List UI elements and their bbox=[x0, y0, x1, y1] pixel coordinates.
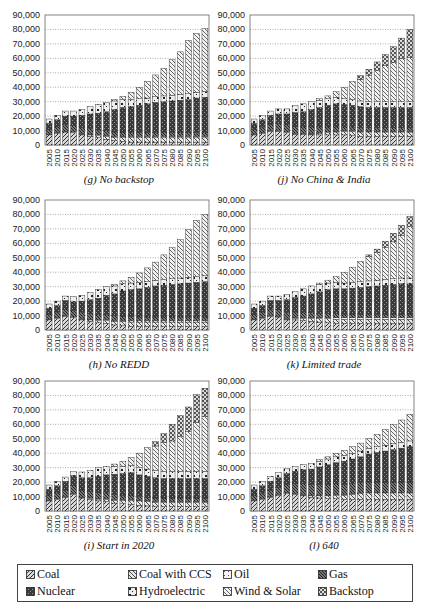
bar-segment-nuclear bbox=[251, 123, 257, 129]
legend: CoalCoal with CCSOilGasNuclearHydroelect… bbox=[17, 564, 413, 602]
bar-segment-wind-solar bbox=[399, 235, 405, 278]
legend-label: Coal with CCS bbox=[139, 567, 212, 582]
bar-segment-nuclear bbox=[300, 296, 306, 313]
bar-segment-backstop bbox=[153, 442, 159, 446]
bar-segment-nuclear bbox=[350, 105, 356, 127]
y-tick-label: 20,000 bbox=[12, 296, 40, 306]
bar-segment-nuclear bbox=[407, 107, 413, 127]
bar-segment-gas bbox=[186, 317, 192, 321]
y-tick-label: 90,000 bbox=[217, 376, 245, 386]
bar-segment-hydroelectric bbox=[46, 119, 52, 123]
bar-segment-hydroelectric bbox=[251, 485, 257, 489]
panel-caption: (l) 640 bbox=[309, 539, 339, 552]
bar-segment-nuclear bbox=[79, 478, 85, 490]
bar-segment-hydroelectric bbox=[259, 301, 265, 305]
bar-segment-gas bbox=[284, 125, 290, 132]
bar-segment-hydroelectric bbox=[95, 468, 101, 477]
chart-panel: 010,00020,00030,00040,00050,00060,00070,… bbox=[217, 10, 414, 186]
bar-segment-oil bbox=[169, 136, 175, 137]
legend-swatch-icon bbox=[223, 570, 232, 579]
bar-segment-gas bbox=[374, 314, 380, 318]
bar-segment-coal bbox=[46, 135, 52, 145]
bar-segment-coal bbox=[186, 507, 192, 511]
bar-segment-hydroelectric bbox=[104, 102, 110, 111]
bar-segment-coal-with-ccs bbox=[177, 502, 183, 506]
bar-segment-coal-with-ccs bbox=[333, 495, 339, 499]
bar-segment-gas bbox=[292, 126, 298, 133]
legend-item-wind-solar: Wind & Solar bbox=[223, 584, 301, 599]
bar-segment-coal-with-ccs bbox=[145, 138, 151, 142]
bar-segment-hydroelectric bbox=[333, 282, 339, 289]
bar-segment-oil bbox=[399, 318, 405, 319]
bar-segment-coal bbox=[350, 324, 356, 331]
bar-segment-nuclear bbox=[202, 479, 208, 499]
bar-segment-coal bbox=[79, 320, 85, 330]
bar-segment-gas bbox=[95, 130, 101, 135]
bar-segment-hydroelectric bbox=[63, 111, 69, 116]
bar-segment-nuclear bbox=[300, 112, 306, 127]
bar-segment-coal-with-ccs bbox=[350, 131, 356, 135]
bar-segment-coal bbox=[317, 135, 323, 145]
bar-segment-hydroelectric bbox=[325, 459, 331, 465]
bar-segment-nuclear bbox=[366, 287, 372, 314]
bar-segment-oil bbox=[128, 136, 134, 137]
bar-segment-coal bbox=[194, 142, 200, 145]
legend-label: Nuclear bbox=[37, 584, 75, 599]
bar-segment-nuclear bbox=[120, 107, 126, 132]
bar-segment-gas bbox=[71, 486, 77, 494]
bar-segment-hydroelectric bbox=[161, 96, 167, 102]
bar-segment-nuclear bbox=[145, 287, 151, 317]
bar-segment-coal bbox=[128, 326, 134, 330]
bar-segment-hydroelectric bbox=[63, 477, 69, 481]
bar-segment-coal-with-ccs bbox=[128, 138, 134, 142]
bar-segment-gas bbox=[169, 498, 175, 502]
bar-segment-coal-with-ccs bbox=[87, 135, 93, 136]
bar-segment-wind-solar bbox=[186, 432, 192, 472]
bar-segment-hydroelectric bbox=[79, 110, 85, 116]
y-tick-label: 20,000 bbox=[12, 111, 40, 121]
bar-segment-nuclear bbox=[161, 102, 167, 133]
bar-segment-coal bbox=[136, 505, 142, 511]
bar-segment-nuclear bbox=[366, 454, 372, 482]
plot-frame bbox=[250, 200, 414, 330]
bar-segment-oil bbox=[161, 136, 167, 137]
bar-segment-hydroelectric bbox=[128, 100, 134, 107]
bar-segment-nuclear bbox=[350, 288, 356, 314]
bar-segment-coal-with-ccs bbox=[366, 493, 372, 500]
bar-segment-wind-solar bbox=[407, 414, 413, 441]
bar-segment-oil bbox=[186, 136, 192, 137]
y-tick-label: 30,000 bbox=[217, 463, 245, 473]
y-tick-label: 20,000 bbox=[217, 477, 245, 487]
y-tick-label: 40,000 bbox=[217, 82, 245, 92]
bar-segment-nuclear bbox=[79, 115, 85, 127]
bar-segment-nuclear bbox=[87, 300, 93, 314]
legend-item-backstop: Backstop bbox=[318, 584, 374, 599]
bar-segment-nuclear bbox=[399, 284, 405, 314]
bar-segment-coal-with-ccs bbox=[317, 496, 323, 498]
bar-segment-hydroelectric bbox=[341, 99, 347, 105]
bar-segment-wind-solar bbox=[325, 96, 331, 99]
bar-segment-coal-with-ccs bbox=[104, 499, 110, 501]
bar-segment-nuclear bbox=[128, 290, 134, 317]
bar-segment-coal-with-ccs bbox=[87, 320, 93, 321]
bar-segment-wind-solar bbox=[194, 422, 200, 471]
bar-segment-coal bbox=[186, 142, 192, 145]
legend-label: Gas bbox=[329, 567, 348, 582]
bar-segment-gas bbox=[399, 314, 405, 318]
bar-segment-gas bbox=[341, 314, 347, 318]
bar-segment-wind-solar bbox=[128, 92, 134, 99]
bar-segment-coal bbox=[251, 320, 257, 330]
bar-segment-gas bbox=[366, 482, 372, 492]
bar-segment-oil bbox=[128, 321, 134, 322]
bar-segment-coal-with-ccs bbox=[177, 138, 183, 142]
bar-segment-hydroelectric bbox=[366, 281, 372, 287]
bar-segment-nuclear bbox=[186, 100, 192, 133]
bar-segment-gas bbox=[169, 317, 175, 321]
bar-segment-coal-with-ccs bbox=[333, 319, 339, 323]
bar-segment-oil bbox=[202, 321, 208, 322]
bar-segment-hydroelectric bbox=[153, 471, 159, 478]
bar-segment-oil bbox=[382, 318, 388, 319]
bar-segment-coal-with-ccs bbox=[358, 494, 364, 500]
bar-segment-wind-solar bbox=[153, 262, 159, 280]
bar-segment-nuclear bbox=[366, 107, 372, 127]
